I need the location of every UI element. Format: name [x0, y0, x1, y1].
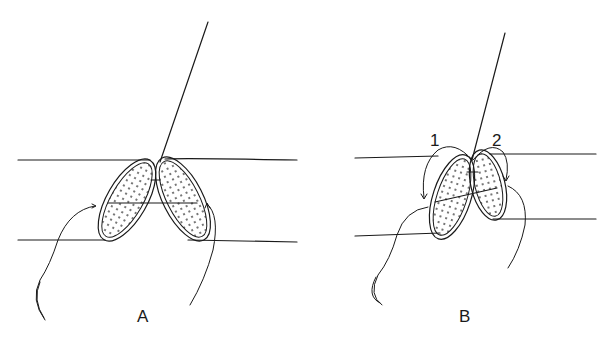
step-label-2: 2: [492, 131, 501, 150]
panel-a: A: [18, 22, 297, 326]
left-wound-edge: [87, 150, 168, 250]
left-thread: [36, 206, 95, 320]
left-thread-double: [37, 282, 44, 318]
needle-strand: [160, 22, 208, 162]
left-thread-b: [374, 207, 428, 305]
tissue-top-left-line-b: [355, 156, 438, 158]
right-thread-b: [508, 186, 525, 268]
step-label-1: 1: [430, 131, 439, 150]
suture-diagram: A 1 2 B: [0, 0, 613, 341]
right-wound-edge: [144, 149, 221, 249]
panel-b: 1 2 B: [355, 33, 596, 326]
panel-label-a: A: [137, 307, 149, 326]
panel-label-b: B: [459, 307, 470, 326]
tissue-top-right-line: [165, 159, 297, 160]
